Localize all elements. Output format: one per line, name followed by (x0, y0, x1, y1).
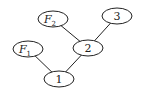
node-label: 3 (114, 10, 121, 23)
nodes-group: 123F1F2 (13, 8, 132, 87)
node-F1: F1 (13, 41, 43, 58)
node-label: 2 (85, 42, 92, 55)
tree-diagram: 123F1F2 (0, 0, 148, 94)
node-n2: 2 (73, 40, 103, 56)
node-n3: 3 (102, 8, 132, 24)
node-label: 1 (56, 73, 63, 86)
diagram-svg: 123F1F2 (0, 0, 148, 94)
node-F2: F2 (38, 11, 68, 28)
node-n1: 1 (44, 71, 74, 87)
